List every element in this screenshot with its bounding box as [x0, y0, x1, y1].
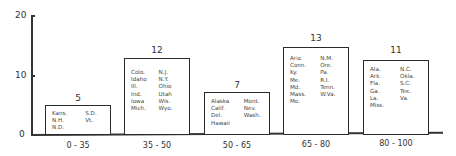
state-col-2: Mont. Nev. Wash. — [244, 98, 261, 127]
x-tick-label: 35 - 50 — [124, 141, 190, 150]
bar-65-80: Ariz. Conn. Ky. Me. Md. Mass. Mo. N.M. O… — [283, 47, 349, 135]
bar-value-label: 7 — [204, 80, 270, 90]
state-col-2: S.D. Vt. — [85, 110, 96, 132]
y-tick-0: 0 — [19, 129, 25, 139]
state-col-1: Alaska Calif. Del. Hawaii — [211, 98, 230, 127]
bar-0-35: Kans. N.H. N.D. S.D. Vt. — [45, 105, 111, 135]
x-tick-label: 65 - 80 — [283, 140, 349, 149]
state-col-1: Ala. Ark. Fla. Ga. La. Miss. — [370, 66, 384, 109]
bar-value-label: 12 — [124, 45, 190, 55]
state-col-2: N.M. Ore. Pa. R.I. Tenn. W.Va. — [320, 55, 335, 105]
x-tick-label: 0 - 35 — [45, 141, 111, 150]
x-tick-label: 80 - 100 — [363, 139, 429, 148]
state-col-1: Colo. Idaho Ill. Ind. Iowa Mich. — [131, 69, 147, 112]
y-axis-mid-tick — [31, 75, 35, 77]
y-axis-top-tick — [31, 15, 35, 17]
x-tick-label: 50 - 65 — [204, 141, 270, 150]
bar-50-65: Alaska Calif. Del. Hawaii Mont. Nev. Was… — [204, 92, 270, 135]
state-col-2: N.J. N.Y. Ohio Utah Wis. Wyo. — [159, 69, 173, 112]
state-col-1: Kans. N.H. N.D. — [52, 110, 67, 132]
bar-80-100: Ala. Ark. Fla. Ga. La. Miss. N.C. Okla. … — [363, 60, 429, 135]
bar-value-label: 11 — [363, 45, 429, 55]
state-col-2: N.C. Okla. S.C. Tex. Va. — [400, 66, 414, 109]
bar-value-label: 13 — [283, 33, 349, 43]
state-col-1: Ariz. Conn. Ky. Me. Md. Mass. Mo. — [290, 55, 306, 105]
bar-35-50: Colo. Idaho Ill. Ind. Iowa Mich. N.J. N.… — [124, 58, 190, 135]
y-tick-10: 10 — [15, 70, 26, 80]
bar-value-label: 5 — [45, 93, 111, 103]
y-tick-20: 20 — [15, 10, 26, 20]
